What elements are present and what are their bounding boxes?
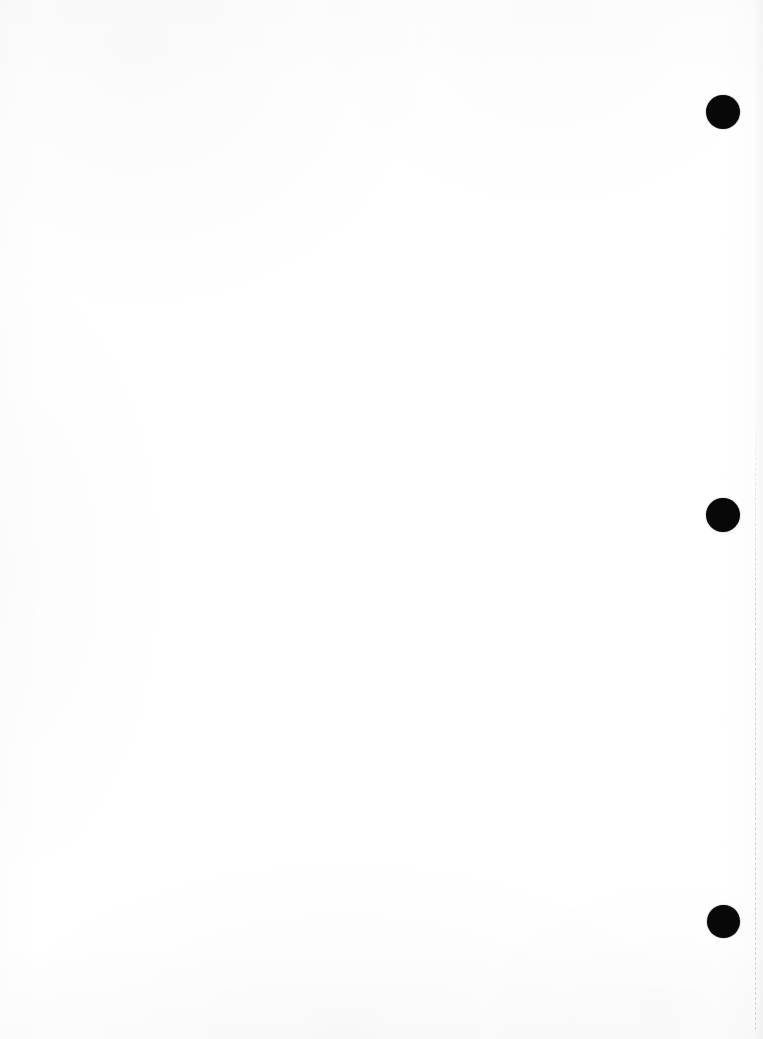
registration-mark-top (706, 95, 740, 129)
paper-speckle (0, 0, 763, 1039)
scanned-page (0, 0, 763, 1039)
paper-texture (0, 0, 763, 1039)
page-right-edge-shading (754, 0, 763, 1039)
perforation-line (755, 398, 756, 1030)
registration-mark-middle (706, 498, 740, 532)
registration-mark-bottom (707, 905, 740, 938)
